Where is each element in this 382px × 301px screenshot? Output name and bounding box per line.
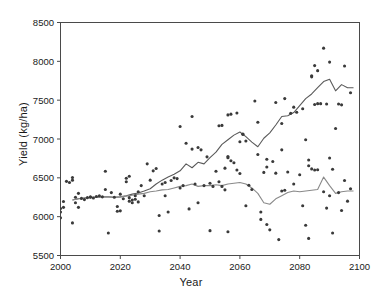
- scatter-point: [256, 121, 259, 124]
- scatter-point: [283, 189, 286, 192]
- scatter-point: [313, 64, 316, 67]
- scatter-point: [343, 179, 346, 182]
- scatter-point: [164, 194, 167, 197]
- scatter-point: [241, 132, 244, 135]
- y-tick-label: 8500: [33, 17, 54, 28]
- scatter-point: [116, 210, 119, 213]
- scatter-point: [259, 210, 262, 213]
- scatter-point: [310, 167, 313, 170]
- scatter-point: [77, 206, 80, 209]
- scatter-point: [92, 196, 95, 199]
- scatter-point: [268, 228, 271, 231]
- scatter-point: [316, 168, 319, 171]
- scatter-point: [262, 171, 265, 174]
- scatter-point: [149, 179, 152, 182]
- scatter-point: [194, 183, 197, 186]
- scatter-point: [271, 160, 274, 163]
- scatter-point: [301, 107, 304, 110]
- scatter-point: [295, 111, 298, 114]
- y-tick-label: 7000: [33, 134, 54, 145]
- scatter-point: [244, 204, 247, 207]
- scatter-point: [304, 224, 307, 227]
- scatter-point: [265, 223, 268, 226]
- scatter-point: [74, 201, 77, 204]
- scatter-point: [62, 206, 65, 209]
- scatter-point: [146, 162, 149, 165]
- scatter-point: [322, 190, 325, 193]
- scatter-point: [238, 172, 241, 175]
- scatter-point: [316, 102, 319, 105]
- scatter-point: [328, 61, 331, 64]
- scatter-point: [182, 184, 185, 187]
- scatter-point: [71, 176, 74, 179]
- x-tick-label: 2100: [349, 261, 370, 272]
- scatter-point: [158, 229, 161, 232]
- scatter-point: [128, 175, 131, 178]
- scatter-point: [304, 138, 307, 141]
- scatter-point: [223, 188, 226, 191]
- scatter-point: [191, 115, 194, 118]
- scatter-point: [86, 196, 89, 199]
- scatter-point: [334, 127, 337, 130]
- scatter-point: [250, 188, 253, 191]
- scatter-point: [232, 161, 235, 164]
- y-axis-title: Yield (kg/ha): [17, 64, 29, 204]
- scatter-point: [191, 148, 194, 151]
- scatter-point: [310, 75, 313, 78]
- scatter-point: [283, 97, 286, 100]
- x-axis-title: Year: [0, 276, 382, 288]
- scatter-point: [208, 182, 211, 185]
- scatter-point: [337, 103, 340, 106]
- scatter-point: [301, 204, 304, 207]
- scatter-point: [346, 200, 349, 203]
- scatter-point: [217, 124, 220, 127]
- scatter-point: [176, 177, 179, 180]
- scatter-point: [158, 214, 161, 217]
- scatter-point: [107, 231, 110, 234]
- x-tick-label: 2060: [229, 261, 250, 272]
- scatter-point: [331, 231, 334, 234]
- scatter-point: [119, 209, 122, 212]
- scatter-point: [161, 183, 164, 186]
- scatter-point: [274, 101, 277, 104]
- chart-container: 5500600065007000750080008500200020202040…: [0, 0, 382, 301]
- scatter-point: [328, 194, 331, 197]
- lower-trend-line: [72, 177, 353, 204]
- scatter-point: [170, 179, 173, 182]
- scatter-point: [253, 99, 256, 102]
- scatter-point: [325, 103, 328, 106]
- scatter-point: [137, 200, 140, 203]
- scatter-point: [307, 164, 310, 167]
- scatter-point: [119, 193, 122, 196]
- scatter-point: [292, 183, 295, 186]
- scatter-point: [110, 191, 113, 194]
- scatter-point: [292, 106, 295, 109]
- y-tick-label: 7500: [33, 95, 54, 106]
- scatter-point: [80, 197, 83, 200]
- scatter-point: [235, 169, 238, 172]
- scatter-point: [59, 210, 62, 213]
- scatter-point: [71, 221, 74, 224]
- scatter-point: [208, 229, 211, 232]
- scatter-point: [122, 197, 125, 200]
- scatter-point: [125, 177, 128, 180]
- y-tick-label: 6500: [33, 172, 54, 183]
- y-tick-label: 5500: [33, 250, 54, 261]
- scatter-point: [265, 158, 268, 161]
- scatter-point: [307, 237, 310, 240]
- scatter-point: [205, 155, 208, 158]
- scatter-point: [131, 198, 134, 201]
- scatter-point: [59, 207, 62, 210]
- scatter-point: [223, 167, 226, 170]
- scatter-point: [316, 69, 319, 72]
- scatter-point: [143, 194, 146, 197]
- scatter-point: [202, 184, 205, 187]
- scatter-point: [220, 124, 223, 127]
- y-tick-label: 8000: [33, 56, 54, 67]
- scatter-point: [226, 113, 229, 116]
- scatter-point: [188, 207, 191, 210]
- scatter-point: [307, 158, 310, 161]
- scatter-point: [286, 170, 289, 173]
- scatter-point: [71, 179, 74, 182]
- scatter-point: [226, 156, 229, 159]
